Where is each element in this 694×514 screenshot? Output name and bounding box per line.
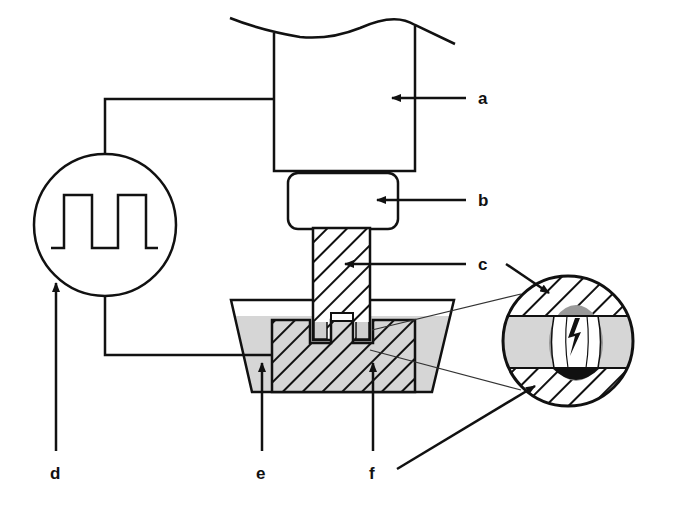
label-d: d [50, 464, 60, 483]
label-e: e [256, 464, 265, 483]
arrow-f-detail [397, 386, 535, 469]
label-a: a [478, 89, 488, 108]
label-b: b [478, 191, 488, 210]
label-c: c [478, 255, 487, 274]
edm-diagram: a b c d e f [0, 0, 694, 514]
machine-head [230, 17, 455, 171]
pulse-generator [34, 154, 176, 296]
label-f: f [369, 464, 375, 483]
